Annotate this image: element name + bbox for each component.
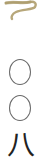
brush-swirl-icon — [0, 0, 48, 22]
zero-glyph — [9, 59, 31, 85]
zero-glyph — [9, 95, 31, 121]
eight-glyph: 八 — [0, 132, 42, 160]
document-page-fragment: 〇 〇 八 — [0, 0, 48, 164]
